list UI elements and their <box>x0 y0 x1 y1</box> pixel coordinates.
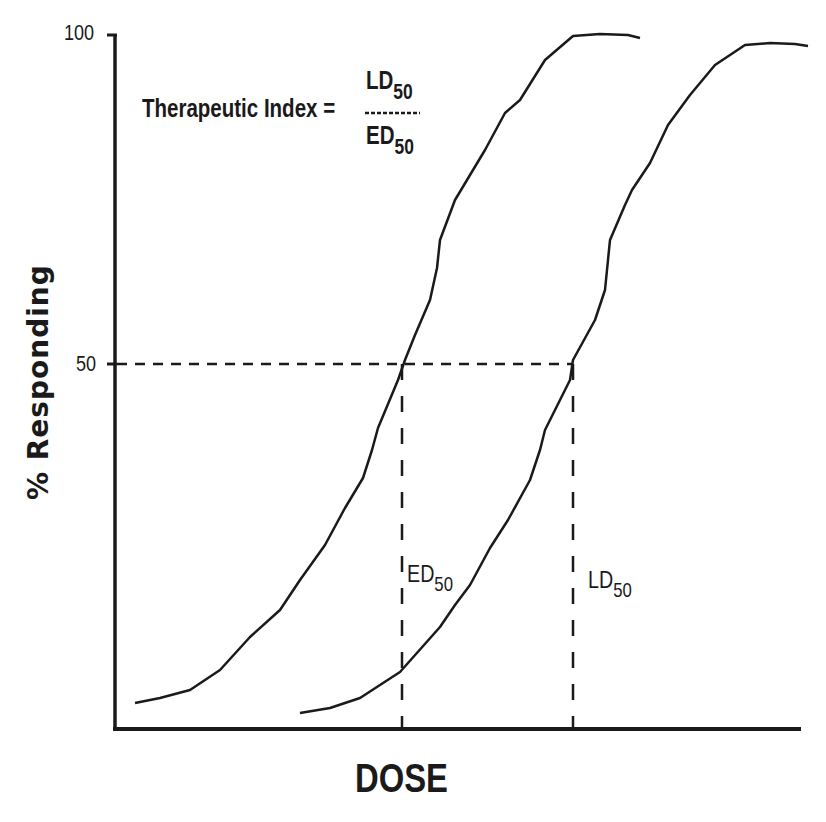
ld50-subscript: 50 <box>613 579 632 601</box>
ld50-label: LD50 <box>588 566 632 602</box>
therapeutic-index-label: Therapeutic Index = <box>142 94 335 123</box>
denominator-text: ED <box>366 121 394 149</box>
ed50-label: ED50 <box>407 560 453 596</box>
y-tick-label-100: 100 <box>64 20 94 46</box>
ed50-subscript: 50 <box>434 573 453 595</box>
numerator-subscript: 50 <box>393 80 412 104</box>
fraction-denominator: ED50 <box>366 121 414 160</box>
numerator-text: LD <box>366 66 393 94</box>
x-axis-label: DOSE <box>355 756 448 801</box>
ed50-text: ED <box>407 560 434 587</box>
denominator-subscript: 50 <box>394 135 413 159</box>
y-axis-label: % Responding <box>22 264 55 500</box>
fraction-numerator: LD50 <box>366 66 413 105</box>
ld50-text: LD <box>588 566 613 593</box>
y-tick-label-50: 50 <box>76 351 96 377</box>
